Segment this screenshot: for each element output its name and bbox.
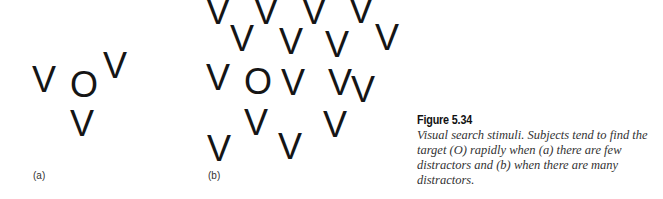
distractor-letter-v: V bbox=[278, 129, 302, 165]
distractor-letter-v: V bbox=[32, 62, 56, 98]
distractor-letter-v: V bbox=[70, 106, 94, 142]
distractor-letter-v: V bbox=[207, 131, 231, 167]
distractor-letter-v: V bbox=[279, 24, 303, 60]
panel-label: (a) bbox=[33, 170, 45, 181]
distractor-letter-v: V bbox=[206, 0, 230, 30]
distractor-letter-v: V bbox=[206, 60, 230, 96]
distractor-letter-v: V bbox=[103, 48, 127, 84]
distractor-letter-v: V bbox=[325, 27, 349, 63]
figure-caption: Figure 5.34 Visual search stimuli. Subje… bbox=[417, 113, 657, 188]
distractor-letter-v: V bbox=[375, 20, 399, 56]
distractor-letter-v: V bbox=[323, 107, 347, 143]
panel-label: (b) bbox=[208, 170, 220, 181]
distractor-letter-v: V bbox=[281, 65, 305, 101]
distractor-letter-v: V bbox=[302, 0, 326, 30]
target-letter-o: O bbox=[244, 64, 272, 100]
figure-caption-text: Visual search stimuli. Subjects tend to … bbox=[417, 128, 657, 188]
distractor-letter-v: V bbox=[230, 21, 254, 57]
target-letter-o: O bbox=[70, 67, 98, 103]
distractor-letter-v: V bbox=[351, 72, 375, 108]
distractor-letter-v: V bbox=[244, 105, 268, 141]
distractor-letter-v: V bbox=[254, 0, 278, 30]
distractor-letter-v: V bbox=[328, 65, 352, 101]
figure-title: Figure 5.34 bbox=[417, 113, 633, 127]
distractor-letter-v: V bbox=[349, 0, 373, 29]
